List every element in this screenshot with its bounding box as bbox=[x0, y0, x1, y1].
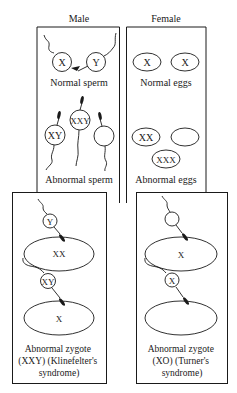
sperm-chromosome: X bbox=[169, 276, 176, 286]
egg-empty bbox=[145, 301, 217, 335]
sperm-head-empty bbox=[94, 126, 114, 146]
egg-chromosome: X bbox=[143, 57, 151, 68]
zygote-caption-right: Abnormal zygote (XO) (Turner's syndrome) bbox=[148, 344, 217, 379]
sperm-tail bbox=[46, 145, 54, 170]
sperm-chromosome: X bbox=[58, 57, 66, 68]
sperm-chromosome: Y bbox=[47, 217, 54, 227]
egg-chromosome: X bbox=[181, 57, 189, 68]
sperm-head-empty bbox=[165, 212, 179, 226]
egg-chromosome: XX bbox=[53, 249, 66, 259]
sperm-tail bbox=[44, 35, 54, 53]
sperm-tail bbox=[38, 199, 47, 214]
egg-chromosome: X bbox=[178, 250, 185, 260]
abnormal-eggs-label: Abnormal eggs bbox=[135, 174, 196, 185]
sperm-tail bbox=[76, 130, 79, 166]
egg-chromosome: XX bbox=[139, 132, 154, 143]
header-male: Male bbox=[69, 13, 90, 24]
egg-empty bbox=[171, 128, 199, 146]
zygote-box-left bbox=[13, 193, 107, 384]
sperm-tail bbox=[162, 196, 170, 212]
header-female: Female bbox=[151, 13, 181, 24]
sperm-chromosome: Y bbox=[92, 57, 99, 68]
abnormal-sperm-label: Abnormal sperm bbox=[45, 174, 113, 185]
normal-sperm-label: Normal sperm bbox=[50, 77, 108, 88]
sperm-chromosome: XY bbox=[48, 130, 62, 141]
zygote-box-right bbox=[137, 193, 228, 384]
normal-eggs-label: Normal eggs bbox=[140, 77, 191, 88]
zygote-caption-left: Abnormal zygote (XXY) (Klinefelter's syn… bbox=[18, 344, 99, 379]
sperm-tail bbox=[105, 146, 107, 171]
sperm-chromosome: XXY bbox=[70, 116, 90, 126]
sperm-tail bbox=[104, 33, 116, 56]
sperm-chromosome: XY bbox=[42, 277, 55, 287]
egg-chromosome: XXX bbox=[156, 155, 176, 165]
egg-chromosome: X bbox=[56, 314, 63, 324]
nondisjunction-diagram: Male Female X Y Normal sperm XY XXY Abno… bbox=[0, 0, 237, 393]
